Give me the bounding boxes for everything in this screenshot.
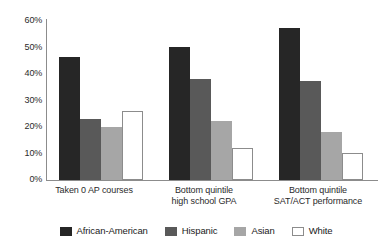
legend-label: African-American <box>77 226 148 236</box>
x-axis-line <box>46 180 378 181</box>
legend-item-white: White <box>292 226 333 236</box>
bar-african-american <box>279 28 300 180</box>
y-axis-tick-labels: 60% 50% 40% 30% 20% 10% 0% <box>0 0 42 247</box>
bar-group <box>59 20 143 180</box>
bar-hispanic <box>80 119 101 180</box>
y-tick-label: 40% <box>0 69 42 78</box>
bar-african-american <box>169 47 190 180</box>
y-tick-label: 30% <box>0 96 42 105</box>
bar-hispanic <box>190 79 211 180</box>
legend-item-hispanic: Hispanic <box>165 226 218 236</box>
bar-asian <box>211 121 232 180</box>
bar-group <box>279 20 363 180</box>
legend-swatch-icon <box>60 227 72 236</box>
y-tick-label: 0% <box>0 175 42 184</box>
category-label-2: Bottom quintile SAT/ACT performance <box>247 185 389 207</box>
y-tick-label: 20% <box>0 122 42 131</box>
bar-chart: 60% 50% 40% 30% 20% 10% 0% Taken 0 AP co… <box>0 0 392 247</box>
bar-white <box>342 153 363 180</box>
legend-label: Asian <box>251 226 274 236</box>
bar-group <box>169 20 253 180</box>
legend-label: White <box>309 226 333 236</box>
bar-hispanic <box>300 81 321 180</box>
chart-legend: African-American Hispanic Asian White <box>0 226 392 236</box>
plot-area <box>47 20 377 180</box>
y-tick-label: 50% <box>0 43 42 52</box>
y-tick-label: 60% <box>0 16 42 25</box>
bar-asian <box>321 132 342 180</box>
legend-item-asian: Asian <box>234 226 274 236</box>
y-tick-label: 10% <box>0 149 42 158</box>
legend-swatch-icon <box>292 227 304 236</box>
legend-swatch-icon <box>234 227 246 236</box>
bar-asian <box>101 127 122 180</box>
bar-white <box>122 111 143 180</box>
legend-label: Hispanic <box>182 226 218 236</box>
legend-swatch-icon <box>165 227 177 236</box>
bar-african-american <box>59 57 80 180</box>
bar-white <box>232 148 253 180</box>
legend-item-african-american: African-American <box>60 226 148 236</box>
